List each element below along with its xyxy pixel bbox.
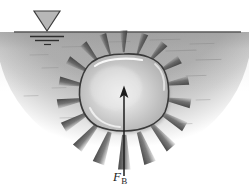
buoyancy-figure: FB: [0, 0, 249, 195]
figure-canvas: [0, 0, 249, 195]
buoyancy-force-label: FB: [113, 167, 127, 186]
force-symbol: F: [113, 169, 121, 184]
water-level-triangle-icon: [34, 11, 60, 31]
object-center-glow: [90, 66, 142, 110]
force-subscript: B: [121, 176, 127, 186]
